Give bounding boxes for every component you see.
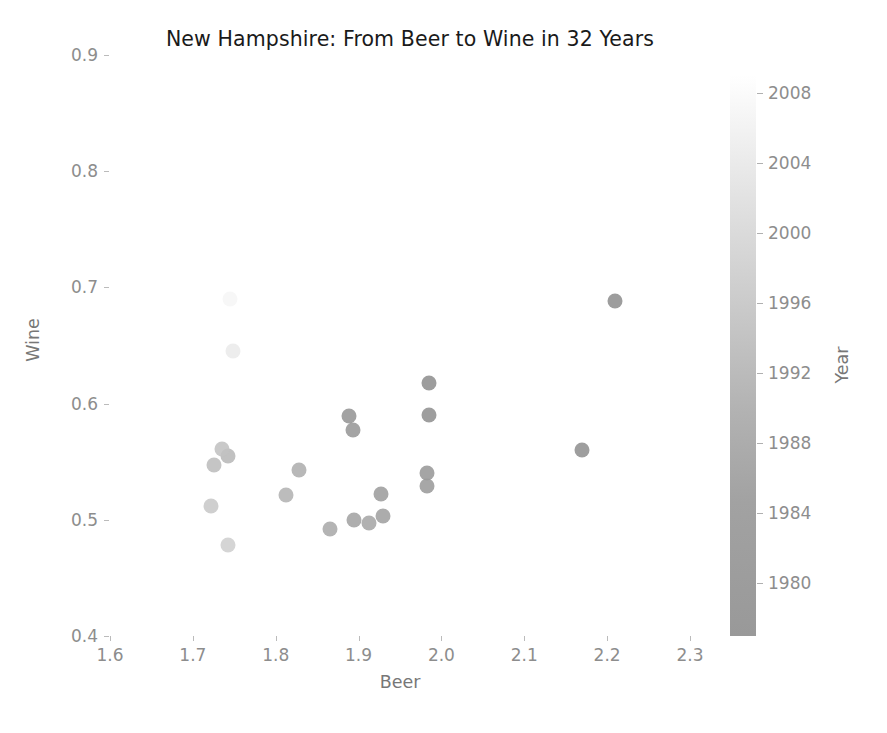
colorbar-tick xyxy=(757,93,763,94)
data-point xyxy=(323,522,338,537)
y-axis-tick-label: 0.4 xyxy=(46,626,98,646)
x-axis-tick xyxy=(276,636,277,641)
x-axis-tick xyxy=(441,636,442,641)
x-axis-tick-label: 1.7 xyxy=(179,645,206,665)
data-point xyxy=(373,487,388,502)
colorbar-tick xyxy=(757,163,763,164)
x-axis-tick xyxy=(690,636,691,641)
data-point xyxy=(575,443,590,458)
x-axis-tick-label: 2.1 xyxy=(511,645,538,665)
x-axis-tick xyxy=(607,636,608,641)
data-point xyxy=(361,516,376,531)
colorbar-tick xyxy=(757,513,763,514)
y-axis-tick-label: 0.6 xyxy=(46,394,98,414)
data-point xyxy=(422,408,437,423)
colorbar-tick xyxy=(757,443,763,444)
data-point xyxy=(214,441,229,456)
colorbar-tick-label: 2008 xyxy=(768,83,811,103)
colorbar-tick-label: 2004 xyxy=(768,153,811,173)
colorbar-axis-label: Year xyxy=(832,335,852,395)
data-point xyxy=(204,498,219,513)
y-axis-label: Wine xyxy=(23,290,43,390)
colorbar-tick-label: 1988 xyxy=(768,433,811,453)
y-axis-tick-label: 0.5 xyxy=(46,510,98,530)
colorbar xyxy=(730,75,756,636)
data-point xyxy=(291,462,306,477)
data-point xyxy=(206,458,221,473)
data-point xyxy=(278,488,293,503)
data-point xyxy=(223,292,238,307)
x-axis-tick xyxy=(110,636,111,641)
y-axis-tick-label: 0.7 xyxy=(46,277,98,297)
x-axis-tick-label: 1.6 xyxy=(96,645,123,665)
y-axis-tick xyxy=(104,520,109,521)
colorbar-tick-label: 1996 xyxy=(768,293,811,313)
colorbar-gradient xyxy=(730,75,756,636)
y-axis-tick xyxy=(104,287,109,288)
data-point xyxy=(225,344,240,359)
colorbar-tick xyxy=(757,233,763,234)
data-point xyxy=(376,509,391,524)
data-point xyxy=(608,294,623,309)
data-point xyxy=(345,423,360,438)
colorbar-tick xyxy=(757,373,763,374)
x-axis-tick-label: 1.9 xyxy=(345,645,372,665)
y-axis-tick xyxy=(104,55,109,56)
colorbar-tick xyxy=(757,583,763,584)
data-point xyxy=(346,512,361,527)
colorbar-tick-label: 1992 xyxy=(768,363,811,383)
y-axis-tick xyxy=(104,404,109,405)
x-axis-tick xyxy=(359,636,360,641)
y-axis-tick-label: 0.8 xyxy=(46,161,98,181)
x-axis-tick-label: 1.8 xyxy=(262,645,289,665)
y-axis-tick-label: 0.9 xyxy=(46,45,98,65)
scatter-chart-figure: New Hampshire: From Beer to Wine in 32 Y… xyxy=(0,0,887,733)
data-point xyxy=(422,375,437,390)
y-axis-tick xyxy=(104,171,109,172)
chart-title: New Hampshire: From Beer to Wine in 32 Y… xyxy=(110,27,710,51)
plot-area xyxy=(110,55,690,636)
x-axis-tick-label: 2.0 xyxy=(428,645,455,665)
data-point xyxy=(220,538,235,553)
y-axis-tick xyxy=(104,636,109,637)
colorbar-tick-label: 1984 xyxy=(768,503,811,523)
x-axis-tick xyxy=(524,636,525,641)
data-point xyxy=(341,409,356,424)
colorbar-tick-label: 1980 xyxy=(768,573,811,593)
x-axis-tick-label: 2.3 xyxy=(676,645,703,665)
x-axis-tick xyxy=(193,636,194,641)
colorbar-tick-label: 2000 xyxy=(768,223,811,243)
x-axis-label: Beer xyxy=(110,672,690,692)
colorbar-tick xyxy=(757,303,763,304)
x-axis-tick-label: 2.2 xyxy=(594,645,621,665)
data-point xyxy=(420,479,435,494)
